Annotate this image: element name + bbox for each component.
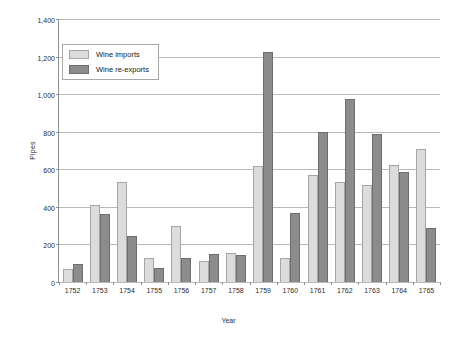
y-tick-label: 400 [43, 204, 55, 211]
bar-imports[interactable] [90, 205, 100, 282]
bar-reexports[interactable] [290, 213, 300, 282]
x-tick-label: 1762 [337, 287, 353, 294]
x-tick-label: 1757 [201, 287, 217, 294]
x-tick-mark [413, 282, 414, 285]
bar-reexports[interactable] [345, 99, 355, 282]
x-tick-mark [386, 282, 387, 285]
bar-reexports[interactable] [426, 228, 436, 282]
x-tick-mark [222, 282, 223, 285]
legend-item[interactable]: Wine re-exports [69, 65, 149, 74]
bar-imports[interactable] [63, 269, 73, 282]
x-tick-label: 1759 [255, 287, 271, 294]
x-tick-label: 1755 [146, 287, 162, 294]
bar-imports[interactable] [117, 182, 127, 282]
x-tick-mark [250, 282, 251, 285]
x-tick-mark [358, 282, 359, 285]
bar-imports[interactable] [389, 165, 399, 282]
x-tick-mark [331, 282, 332, 285]
legend-swatch-reexports [69, 65, 89, 74]
bar-reexports[interactable] [100, 214, 110, 282]
bar-reexports[interactable] [127, 236, 137, 282]
x-tick-label: 1753 [92, 287, 108, 294]
x-tick-label: 1763 [364, 287, 380, 294]
y-tick-label: 600 [43, 167, 55, 174]
bar-imports[interactable] [171, 226, 181, 282]
bar-group: 1761 [304, 19, 331, 282]
bar-group: 1762 [331, 19, 358, 282]
legend-label: Wine re-exports [96, 65, 149, 74]
x-tick-label: 1752 [65, 287, 81, 294]
bar-reexports[interactable] [181, 258, 191, 282]
y-tick-label: 800 [43, 129, 55, 136]
x-tick-label: 1760 [283, 287, 299, 294]
chart-legend: Wine importsWine re-exports [62, 44, 159, 80]
bar-imports[interactable] [226, 253, 236, 282]
bar-reexports[interactable] [209, 254, 219, 282]
bar-reexports[interactable] [73, 264, 83, 282]
bar-group: 1758 [222, 19, 249, 282]
x-tick-mark [440, 282, 441, 285]
legend-swatch-imports [69, 50, 89, 59]
x-tick-label: 1754 [119, 287, 135, 294]
bar-imports[interactable] [253, 166, 263, 282]
bar-reexports[interactable] [318, 132, 328, 282]
bar-imports[interactable] [335, 182, 345, 283]
bar-group: 1765 [413, 19, 440, 282]
x-tick-label: 1756 [174, 287, 190, 294]
bar-group: 1756 [168, 19, 195, 282]
bar-imports[interactable] [199, 261, 209, 282]
bar-chart-figure: Pipes 02004006008001,0001,2001,400 17521… [0, 0, 457, 339]
y-tick-label: 1,200 [37, 54, 55, 61]
x-tick-label: 1761 [310, 287, 326, 294]
bar-imports[interactable] [308, 175, 318, 282]
bar-imports[interactable] [280, 258, 290, 282]
x-tick-mark [113, 282, 114, 285]
legend-label: Wine imports [96, 50, 140, 59]
y-tick-label: 200 [43, 242, 55, 249]
y-tick-label: 1,400 [37, 17, 55, 24]
x-tick-label: 1765 [419, 287, 435, 294]
x-tick-mark [277, 282, 278, 285]
bar-group: 1760 [277, 19, 304, 282]
bar-group: 1757 [195, 19, 222, 282]
x-tick-mark [195, 282, 196, 285]
bar-group: 1759 [250, 19, 277, 282]
y-tick-label: 1,000 [37, 92, 55, 99]
bar-group: 1764 [386, 19, 413, 282]
x-tick-mark [168, 282, 169, 285]
bar-reexports[interactable] [372, 134, 382, 282]
bar-reexports[interactable] [399, 172, 409, 282]
x-tick-mark [141, 282, 142, 285]
bar-reexports[interactable] [154, 268, 164, 282]
x-tick-mark [304, 282, 305, 285]
bar-reexports[interactable] [263, 52, 273, 282]
bar-imports[interactable] [362, 185, 372, 282]
bar-imports[interactable] [144, 258, 154, 282]
x-tick-mark [59, 282, 60, 285]
bar-imports[interactable] [416, 149, 426, 282]
y-tick-label: 0 [51, 280, 55, 287]
bar-reexports[interactable] [236, 255, 246, 282]
x-tick-label: 1758 [228, 287, 244, 294]
y-axis-label: Pipes [29, 121, 36, 181]
x-axis-label: Year [0, 317, 457, 324]
x-tick-mark [86, 282, 87, 285]
legend-item[interactable]: Wine imports [69, 50, 149, 59]
x-tick-label: 1764 [391, 287, 407, 294]
bar-group: 1763 [358, 19, 385, 282]
